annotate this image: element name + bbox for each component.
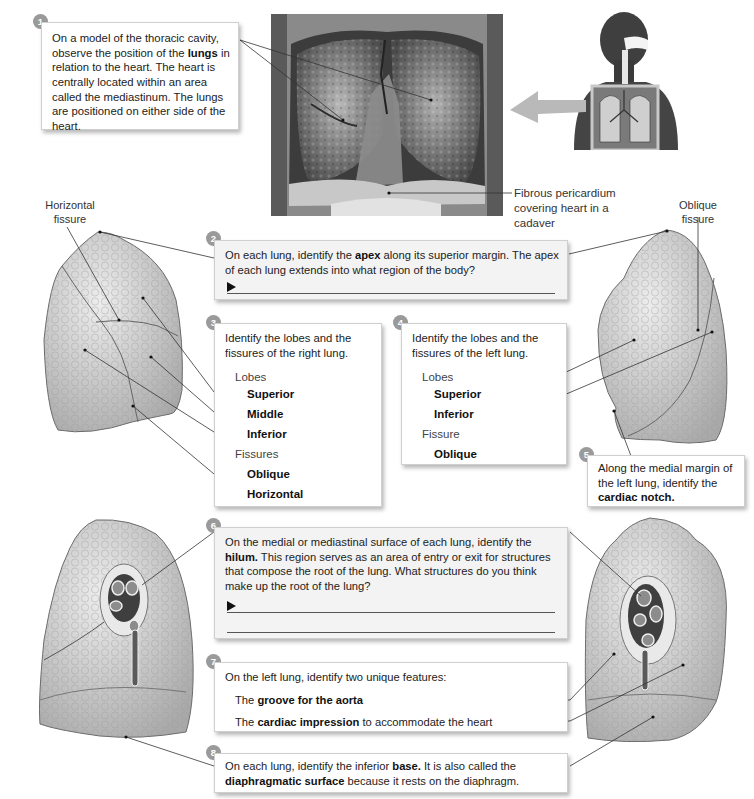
step-6-answer-line-2[interactable] [227, 632, 555, 633]
step-8-box: On each lung, identify the inferior base… [214, 753, 568, 793]
step-4-lobe-superior: Superior [434, 387, 481, 402]
right-lung-lateral [44, 232, 182, 432]
step-3-box: Identify the lobes and the fissures of t… [214, 323, 382, 507]
step-8-text: On each lung, identify the inferior base… [225, 759, 563, 788]
step-6-box: On the medial or mediastinal surface of … [214, 527, 568, 639]
step-7-item-aorta-groove: The groove for the aorta [235, 693, 363, 708]
horizontal-fissure-label: Horizontal fissure [30, 198, 110, 227]
cadaver-photo [271, 14, 503, 216]
step-3-lobes-heading: Lobes [235, 370, 266, 385]
step-4-fissure-heading: Fissure [422, 427, 460, 442]
step-2-text: On each lung, identify the apex along it… [225, 248, 561, 277]
step-3-lobe-superior: Superior [247, 387, 294, 402]
left-lung-lateral [598, 230, 727, 443]
answer-arrow-icon [227, 601, 236, 611]
right-lung-medial [40, 520, 194, 738]
step-4-fissure-oblique: Oblique [434, 447, 477, 462]
step-5-box: Along the medial margin of the left lung… [587, 455, 745, 507]
step-3-lobe-middle: Middle [247, 407, 283, 422]
step-1-box: On a model of the thoracic cavity, obser… [41, 22, 239, 130]
step-7-item-cardiac-impression: The cardiac impression to accommodate th… [235, 715, 492, 730]
human-torso-icon [566, 10, 686, 150]
step-7-intro: On the left lung, identify two unique fe… [225, 670, 563, 685]
step-4-lobes-heading: Lobes [422, 370, 453, 385]
cadaver-thorax-illustration [271, 14, 503, 216]
body-inset [566, 10, 686, 150]
step-6-text: On the medial or mediastinal surface of … [225, 535, 563, 593]
step-3-fissure-horizontal: Horizontal [247, 487, 303, 502]
step-4-box: Identify the lobes and the fissures of t… [401, 323, 567, 465]
answer-arrow-icon [227, 282, 236, 292]
oblique-fissure-label: Oblique fissure [666, 198, 730, 227]
step-4-lobe-inferior: Inferior [434, 407, 474, 422]
step-1-text: On a model of the thoracic cavity, obser… [52, 31, 232, 134]
left-lung-medial [585, 518, 726, 742]
step-3-fissure-oblique: Oblique [247, 467, 290, 482]
step-3-intro: Identify the lobes and the fissures of t… [225, 331, 375, 360]
step-3-fissures-heading: Fissures [235, 447, 278, 462]
step-7-box: On the left lung, identify two unique fe… [214, 662, 568, 732]
step-2-answer-line[interactable] [227, 293, 555, 294]
step-2-box: On each lung, identify the apex along it… [214, 240, 568, 300]
step-3-lobe-inferior: Inferior [247, 427, 287, 442]
step-6-answer-line-1[interactable] [227, 612, 555, 613]
step-4-intro: Identify the lobes and the fissures of t… [412, 331, 562, 360]
fibrous-pericardium-label: Fibrous pericardium covering heart in a … [514, 186, 644, 231]
step-5-text: Along the medial margin of the left lung… [598, 461, 742, 505]
